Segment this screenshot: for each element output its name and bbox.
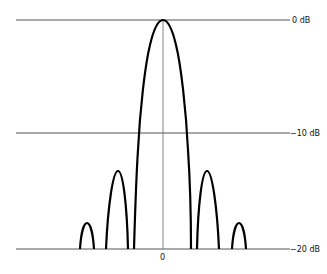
y-label-minus20db: −20 dB [290, 245, 320, 254]
y-label-minus10db: −10 dB [290, 129, 320, 138]
main-lobe-curve [134, 20, 191, 249]
y-label-0db: 0 dB [292, 16, 310, 25]
left-outer-sidelobe-curve [80, 223, 94, 249]
right-inner-sidelobe-curve [197, 171, 219, 249]
left-inner-sidelobe-curve [106, 171, 128, 249]
right-outer-sidelobe-curve [232, 223, 246, 249]
x-label-zero: 0 [160, 253, 165, 262]
radiation-pattern-chart: 0 dB −10 dB −20 dB 0 [0, 0, 327, 274]
